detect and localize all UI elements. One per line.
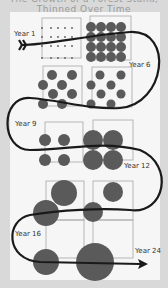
label-year9: Year 9 bbox=[14, 120, 37, 128]
label-year6: Year 6 bbox=[128, 61, 151, 69]
label-year12: Year 12 bbox=[123, 162, 150, 170]
trees-year12 bbox=[83, 130, 123, 170]
label-year1: Year 1 bbox=[13, 30, 36, 38]
label-year24: Year 24 bbox=[134, 247, 161, 255]
trees-year6 bbox=[86, 22, 126, 62]
forest-growth-diagram: Year 1 Year 6 Year 9 Year 12 Year 16 Yea… bbox=[0, 0, 168, 288]
label-year16: Year 16 bbox=[14, 230, 41, 238]
trees-row4 bbox=[33, 180, 123, 226]
